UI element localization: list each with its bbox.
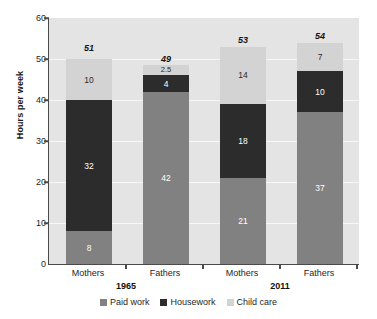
legend-swatch-icon xyxy=(160,299,167,306)
bar-total-label: 51 xyxy=(58,43,120,53)
x-axis-label-mothers-1965: Mothers xyxy=(48,268,128,278)
bar-segment-value: 7 xyxy=(297,53,343,62)
bar-segment-paid-work[interactable]: 37 xyxy=(297,112,343,264)
bar-segment-value: 10 xyxy=(297,88,343,97)
legend-label: Paid work xyxy=(110,297,150,307)
y-tick-label-20: 20 xyxy=(24,177,46,187)
x-axis-label-fathers-1965: Fathers xyxy=(125,268,205,278)
y-tick-label-30: 30 xyxy=(24,136,46,146)
bar-segment-value: 32 xyxy=(66,161,112,170)
bar-segment-paid-work[interactable]: 8 xyxy=(66,231,112,264)
bar-segment-paid-work[interactable]: 21 xyxy=(220,178,266,264)
bar-segment-child-care[interactable]: 7 xyxy=(297,43,343,72)
bar-total-label: 49 xyxy=(135,54,197,64)
legend-item-housework[interactable]: Housework xyxy=(160,297,215,307)
bar-segment-value: 2.5 xyxy=(143,67,189,75)
bar-segment-housework[interactable]: 18 xyxy=(220,104,266,178)
bar-segment-housework[interactable]: 4 xyxy=(143,75,189,91)
bar-mothers-2011[interactable]: 21 18 14 53 xyxy=(220,47,266,264)
bar-segment-value: 10 xyxy=(66,75,112,84)
y-tick-label-50: 50 xyxy=(24,54,46,64)
legend-label: Child care xyxy=(237,297,278,307)
bar-total-label: 53 xyxy=(212,35,274,45)
y-tick-label-40: 40 xyxy=(24,95,46,105)
bar-mothers-1965[interactable]: 8 32 10 51 xyxy=(66,55,112,264)
bar-total-label: 54 xyxy=(289,31,351,41)
legend-swatch-icon xyxy=(227,299,234,306)
bar-segment-value: 4 xyxy=(143,79,189,88)
bar-fathers-2011[interactable]: 37 10 7 54 xyxy=(297,43,343,264)
bar-segment-child-care[interactable]: 2.5 xyxy=(143,65,189,75)
x-axis-group-label-2011: 2011 xyxy=(220,281,340,291)
bar-segment-value: 14 xyxy=(220,71,266,80)
x-axis-group-label-1965: 1965 xyxy=(66,281,186,291)
bar-segment-value: 37 xyxy=(297,184,343,193)
y-tick-label-10: 10 xyxy=(24,218,46,228)
stacked-bar-chart: Hours per week 60 50 40 30 20 10 0 8 32 xyxy=(0,0,377,319)
x-axis-label-mothers-2011: Mothers xyxy=(202,268,282,278)
bar-segment-child-care[interactable]: 14 xyxy=(220,47,266,104)
legend-swatch-icon xyxy=(100,299,107,306)
y-tick-label-0: 0 xyxy=(24,259,46,269)
legend-item-child-care[interactable]: Child care xyxy=(227,297,278,307)
legend-label: Housework xyxy=(170,297,215,307)
chart-legend: Paid work Housework Child care xyxy=(0,297,377,307)
bar-segment-value: 21 xyxy=(220,217,266,226)
bar-segment-housework[interactable]: 32 xyxy=(66,100,112,231)
bar-segment-value: 18 xyxy=(220,137,266,146)
bar-segment-housework[interactable]: 10 xyxy=(297,71,343,112)
plot-area: 8 32 10 51 42 4 2.5 49 2 xyxy=(48,18,359,265)
bar-fathers-1965[interactable]: 42 4 2.5 49 xyxy=(143,65,189,264)
bar-segment-value: 42 xyxy=(143,174,189,183)
bar-segment-value: 8 xyxy=(66,243,112,252)
bar-segment-child-care[interactable]: 10 xyxy=(66,59,112,100)
x-axis-label-fathers-2011: Fathers xyxy=(279,268,359,278)
y-tick-label-60: 60 xyxy=(24,13,46,23)
bar-segment-paid-work[interactable]: 42 xyxy=(143,92,189,264)
legend-item-paid-work[interactable]: Paid work xyxy=(100,297,150,307)
y-axis: 60 50 40 30 20 10 0 xyxy=(0,18,46,264)
